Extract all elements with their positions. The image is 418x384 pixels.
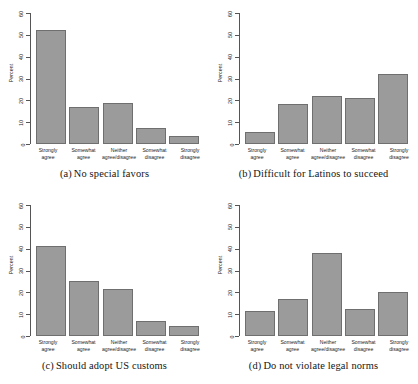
y-tick-label: 10 bbox=[18, 120, 24, 126]
x-axis-label: Neitheragree/disagree bbox=[311, 339, 345, 352]
bar-cell bbox=[378, 13, 408, 144]
y-tick: 50 bbox=[235, 35, 239, 36]
y-axis-title-a: Percent bbox=[4, 0, 18, 145]
x-axis-label: Stronglydisagree bbox=[382, 147, 416, 160]
y-tick-label: 60 bbox=[227, 203, 233, 209]
y-tick-label: 10 bbox=[18, 312, 24, 318]
bar bbox=[103, 103, 133, 144]
y-tick-label: 60 bbox=[18, 203, 24, 209]
y-axis-title-text: Percent bbox=[8, 255, 14, 274]
y-tick: 10 bbox=[235, 314, 239, 315]
x-axis-label-line1: Somewhat bbox=[280, 339, 304, 345]
axis-area-d: 0102030405060 bbox=[227, 202, 413, 339]
y-tick: 0 bbox=[235, 336, 239, 337]
panel-caption-tag: (b) bbox=[239, 168, 252, 179]
bar-cell bbox=[245, 13, 275, 144]
x-axis-label-line1: Strongly bbox=[248, 147, 267, 153]
panel-caption-text: Should adopt US customs bbox=[56, 360, 167, 371]
x-axis-label-line2: agree/disagree bbox=[311, 154, 345, 161]
y-tick: 30 bbox=[235, 79, 239, 80]
bar-cell bbox=[278, 13, 308, 144]
x-axis-label-line2: disagree bbox=[347, 154, 381, 161]
chart-panel-d: Percent0102030405060StronglyagreeSomewha… bbox=[209, 192, 418, 384]
panel-caption-c: (c)Should adopt US customs bbox=[0, 360, 209, 371]
y-tick: 10 bbox=[26, 122, 30, 123]
x-axis-label: Neitheragree/disagree bbox=[102, 147, 136, 160]
y-tick: 40 bbox=[26, 249, 30, 250]
bar bbox=[278, 299, 308, 336]
x-axis-label: Somewhatdisagree bbox=[347, 339, 381, 352]
bar bbox=[169, 326, 199, 336]
y-tick-label: 30 bbox=[227, 268, 233, 274]
y-axis-title-text: Percent bbox=[217, 63, 223, 82]
y-tick-label: 30 bbox=[227, 76, 233, 82]
y-tick: 20 bbox=[26, 100, 30, 101]
y-tick: 20 bbox=[235, 100, 239, 101]
bar bbox=[69, 281, 99, 336]
x-axis-label: Somewhatagree bbox=[276, 147, 310, 160]
x-axis-label-line1: Strongly bbox=[39, 339, 58, 345]
bar-series-c bbox=[31, 205, 202, 336]
x-axis-label: Somewhatdisagree bbox=[347, 147, 381, 160]
plot-area-b: Percent0102030405060StronglyagreeSomewha… bbox=[209, 0, 418, 160]
y-tick-label: 20 bbox=[227, 290, 233, 296]
panel-caption-b: (b)Difficult for Latinos to succeed bbox=[209, 168, 418, 179]
x-axis-label-line2: agree bbox=[240, 154, 274, 161]
y-tick-label: 30 bbox=[18, 268, 24, 274]
x-axis-labels-c: StronglyagreeSomewhatagreeNeitheragree/d… bbox=[31, 339, 207, 352]
x-axis-label-line1: Neither bbox=[111, 147, 127, 153]
y-tick: 40 bbox=[26, 57, 30, 58]
x-axis-labels-a: StronglyagreeSomewhatagreeNeitheragree/d… bbox=[31, 147, 207, 160]
x-axis-label-line2: agree bbox=[31, 346, 65, 353]
x-axis-label: Somewhatdisagree bbox=[138, 147, 172, 160]
x-axis-label-line1: Neither bbox=[320, 339, 336, 345]
y-tick-label: 60 bbox=[227, 11, 233, 17]
x-axis-label-line2: disagree bbox=[347, 346, 381, 353]
y-tick: 0 bbox=[26, 336, 30, 337]
bar bbox=[312, 253, 342, 336]
y-axis-title-text: Percent bbox=[217, 255, 223, 274]
plot-area-a: Percent0102030405060StronglyagreeSomewha… bbox=[0, 0, 209, 160]
x-axis-label-line2: agree/disagree bbox=[102, 154, 136, 161]
x-axis-label-line1: Somewhat bbox=[351, 147, 375, 153]
y-tick: 50 bbox=[26, 35, 30, 36]
y-tick: 30 bbox=[235, 271, 239, 272]
x-axis-label: Somewhatdisagree bbox=[138, 339, 172, 352]
x-axis-label-line2: disagree bbox=[173, 154, 207, 161]
bar-series-b bbox=[240, 13, 411, 144]
y-tick: 20 bbox=[26, 292, 30, 293]
x-axis-label: Somewhatagree bbox=[276, 339, 310, 352]
y-axis-title-c: Percent bbox=[4, 192, 18, 337]
y-tick-label: 40 bbox=[227, 246, 233, 252]
bar bbox=[245, 311, 275, 336]
y-tick-label: 0 bbox=[20, 335, 26, 338]
x-axis-label-line2: disagree bbox=[382, 154, 416, 161]
bar-cell bbox=[136, 13, 166, 144]
y-tick: 10 bbox=[26, 314, 30, 315]
x-axis-label-line1: Neither bbox=[111, 339, 127, 345]
x-axis-label-line2: agree bbox=[67, 346, 101, 353]
x-axis-label: Stronglyagree bbox=[31, 147, 65, 160]
y-tick-label: 0 bbox=[20, 143, 26, 146]
x-axis-label-line1: Somewhat bbox=[71, 147, 95, 153]
y-tick-label: 10 bbox=[227, 120, 233, 126]
bar bbox=[136, 128, 166, 144]
x-axis-label-line2: agree bbox=[276, 346, 310, 353]
x-axis-label: Stronglyagree bbox=[240, 147, 274, 160]
bar bbox=[345, 98, 375, 144]
x-axis-label: Neitheragree/disagree bbox=[311, 147, 345, 160]
y-tick-label: 50 bbox=[227, 32, 233, 38]
x-axis-label: Stronglydisagree bbox=[173, 147, 207, 160]
y-tick-label: 40 bbox=[227, 54, 233, 60]
bar bbox=[36, 246, 66, 336]
bar bbox=[245, 132, 275, 144]
y-tick-label: 50 bbox=[18, 32, 24, 38]
x-axis-label-line2: agree bbox=[31, 154, 65, 161]
bar-cell bbox=[345, 13, 375, 144]
y-tick: 0 bbox=[26, 144, 30, 145]
panel-caption-tag: (c) bbox=[42, 360, 54, 371]
y-axis-title-d: Percent bbox=[213, 192, 227, 337]
y-tick-label: 20 bbox=[227, 98, 233, 104]
chart-panel-c: Percent0102030405060StronglyagreeSomewha… bbox=[0, 192, 209, 384]
y-tick: 30 bbox=[26, 271, 30, 272]
